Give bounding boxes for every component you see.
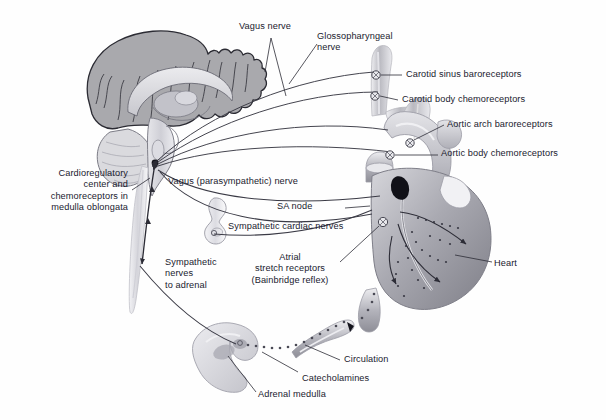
label-aortic-arch-baroreceptors: Aortic arch baroreceptors <box>447 119 553 130</box>
label-adrenal-medulla: Adrenal medulla <box>258 389 326 400</box>
label-sympathetic-nerves-to-adrenal: Sympathetic nerves to adrenal <box>165 257 217 291</box>
label-carotid-body-chemoreceptors: Carotid body chemoreceptors <box>402 94 525 105</box>
label-aortic-body-chemoreceptors: Aortic body chemoreceptors <box>441 148 558 159</box>
label-atrial-stretch-receptors: Atrial stretch receptors (Bainbridge ref… <box>236 252 344 286</box>
label-sympathetic-cardiac-nerves: Sympathetic cardiac nerves <box>228 221 343 232</box>
figure-canvas: Vagus nerve Glossopharyngeal nerve Carot… <box>0 0 606 420</box>
label-glossopharyngeal-nerve: Glossopharyngeal nerve <box>317 31 393 54</box>
label-circulation: Circulation <box>344 354 389 365</box>
sympathetic-ganglion-illustration <box>205 198 227 244</box>
label-cardioregulatory-center: Cardioregulatory center and chemorecepto… <box>12 168 128 214</box>
spinal-cord-illustration <box>129 164 155 314</box>
label-catecholamines: Catecholamines <box>302 373 369 384</box>
label-carotid-sinus-baroreceptors: Carotid sinus baroreceptors <box>406 69 522 80</box>
label-vagus-parasympathetic-nerve: Vagus (parasympathetic) nerve <box>168 176 298 187</box>
label-vagus-nerve: Vagus nerve <box>239 21 291 32</box>
label-heart: Heart <box>494 258 517 269</box>
label-sa-node: SA node <box>277 201 312 212</box>
